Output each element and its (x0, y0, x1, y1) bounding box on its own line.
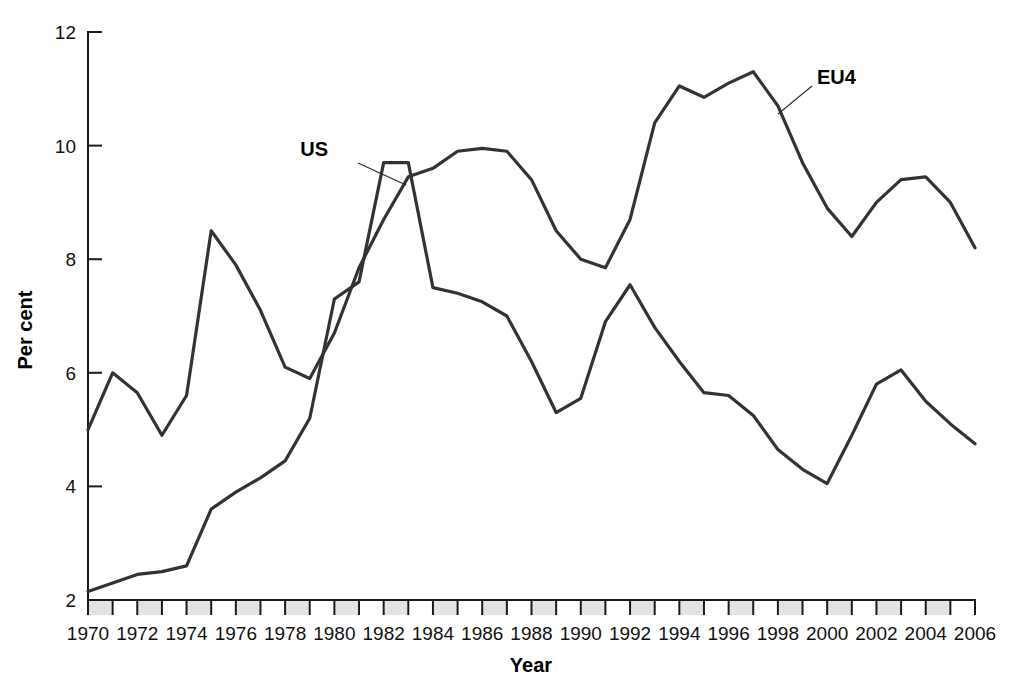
series-label-eu4: EU4 (817, 66, 857, 88)
series-line-eu4 (88, 72, 975, 436)
y-tick-label: 4 (65, 476, 76, 497)
line-chart: 24681012 1970197219741976197819801982198… (0, 0, 1013, 685)
annotation-leader-line-eu4 (778, 86, 812, 114)
x-tick-label: 1992 (609, 623, 651, 644)
x-tick-label: 1998 (757, 623, 799, 644)
axis-band (236, 601, 261, 615)
axis-band (334, 601, 359, 615)
x-tick-label: 1972 (116, 623, 158, 644)
x-tick-label: 1986 (461, 623, 503, 644)
x-tick-label: 1978 (264, 623, 306, 644)
y-tick-label: 6 (65, 363, 76, 384)
axis-band (137, 601, 162, 615)
axis-band (926, 601, 951, 615)
x-tick-label: 1982 (363, 623, 405, 644)
y-axis-ticks (88, 32, 102, 600)
y-axis-tick-labels: 24681012 (55, 22, 77, 611)
x-tick-label: 1990 (560, 623, 602, 644)
axis-band (778, 601, 803, 615)
y-tick-label: 10 (55, 136, 76, 157)
x-tick-label: 2004 (905, 623, 948, 644)
chart-axes (88, 32, 975, 600)
data-series-group (88, 72, 975, 592)
x-tick-label: 1996 (707, 623, 749, 644)
axis-tick-bands (88, 601, 950, 615)
axis-band (187, 601, 212, 615)
axis-band (482, 601, 507, 615)
series-label-us: US (300, 138, 328, 160)
x-tick-label: 1974 (165, 623, 208, 644)
axis-band (679, 601, 704, 615)
y-tick-label: 8 (65, 249, 76, 270)
x-tick-label: 1976 (215, 623, 257, 644)
x-tick-label: 1988 (510, 623, 552, 644)
axis-band (433, 601, 458, 615)
chart-container: 24681012 1970197219741976197819801982198… (0, 0, 1013, 685)
x-tick-label: 2002 (855, 623, 897, 644)
axis-band (581, 601, 606, 615)
y-tick-label: 12 (55, 22, 76, 43)
x-tick-label: 2006 (954, 623, 996, 644)
x-axis-tick-labels: 1970197219741976197819801982198419861988… (67, 623, 996, 644)
x-axis-title: Year (510, 654, 552, 676)
axis-band (285, 601, 310, 615)
x-tick-label: 1980 (313, 623, 355, 644)
x-tick-label: 1994 (658, 623, 701, 644)
axis-band (827, 601, 852, 615)
x-tick-label: 2000 (806, 623, 848, 644)
y-tick-label: 2 (65, 590, 76, 611)
axis-band (532, 601, 557, 615)
axis-band (876, 601, 901, 615)
axis-band (88, 601, 113, 615)
x-tick-label: 1970 (67, 623, 109, 644)
y-axis-title: Per cent (14, 290, 36, 369)
axis-band (384, 601, 409, 615)
axis-band (729, 601, 754, 615)
axis-band (630, 601, 655, 615)
x-tick-label: 1984 (412, 623, 455, 644)
